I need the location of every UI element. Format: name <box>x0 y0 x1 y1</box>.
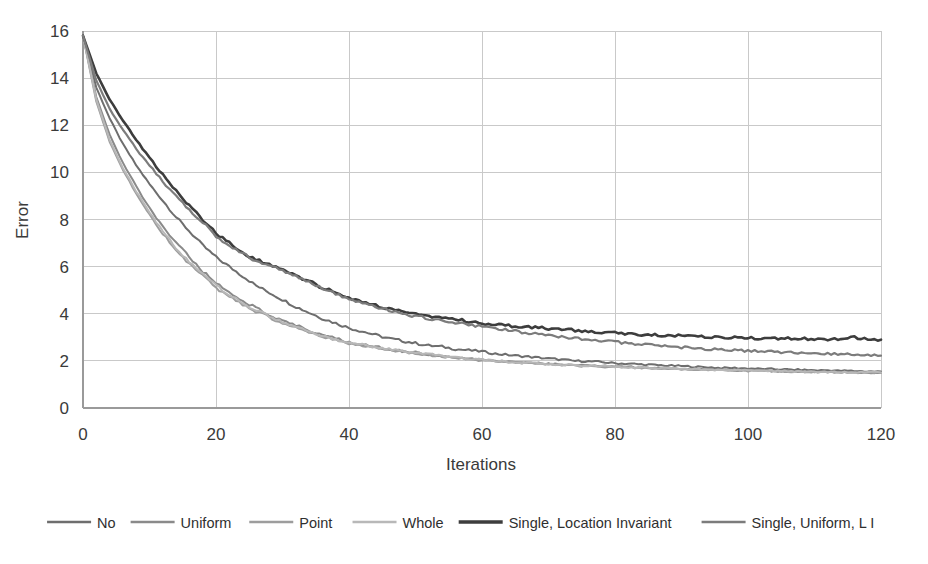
figure-background <box>0 0 928 564</box>
legend-item-label: Single, Uniform, L I <box>752 515 875 531</box>
y-tick-label: 10 <box>50 163 69 182</box>
convergence-line-chart: 1614121086420 020406080100120 Error Iter… <box>0 0 928 564</box>
x-tick-label: 120 <box>867 425 895 444</box>
legend-item-label: Whole <box>403 515 444 531</box>
y-tick-label: 12 <box>50 116 69 135</box>
y-tick-label: 14 <box>50 69 69 88</box>
legend-item-label: Uniform <box>181 515 232 531</box>
y-axis-title: Error <box>13 201 32 239</box>
x-tick-label: 0 <box>78 425 87 444</box>
x-axis-title: Iterations <box>446 455 516 474</box>
y-tick-label: 6 <box>60 258 69 277</box>
x-tick-label: 20 <box>207 425 226 444</box>
legend-item-label: Single, Location Invariant <box>509 515 672 531</box>
x-tick-label: 40 <box>340 425 359 444</box>
y-tick-label: 4 <box>60 305 69 324</box>
chart-figure: 1614121086420 020406080100120 Error Iter… <box>0 0 928 564</box>
x-tick-label: 100 <box>734 425 762 444</box>
legend-item-label: No <box>97 515 116 531</box>
y-tick-label: 8 <box>60 211 69 230</box>
x-tick-label: 80 <box>606 425 625 444</box>
y-tick-label: 0 <box>60 399 69 418</box>
legend-item-label: Point <box>299 515 332 531</box>
x-tick-label: 60 <box>473 425 492 444</box>
y-tick-label: 2 <box>60 352 69 371</box>
y-tick-label: 16 <box>50 22 69 41</box>
